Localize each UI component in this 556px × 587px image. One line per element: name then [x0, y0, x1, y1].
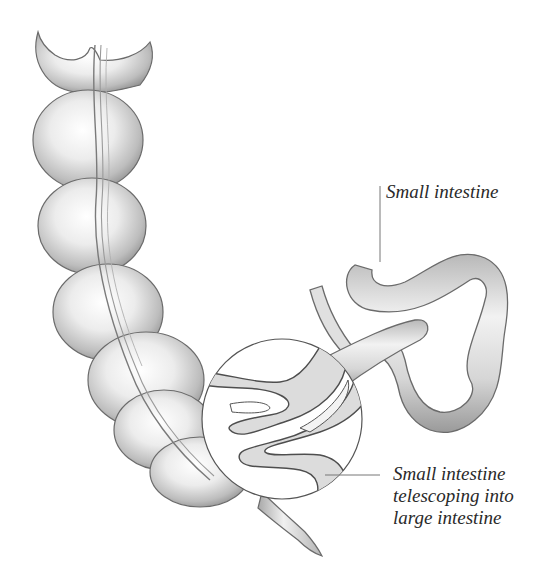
label-telescoping-line3: large intestine — [393, 507, 514, 529]
appendix — [258, 492, 322, 556]
label-telescoping: Small intestine telescoping into large i… — [393, 463, 514, 529]
label-small-intestine: Small intestine — [386, 181, 498, 203]
label-telescoping-line1: Small intestine — [393, 463, 514, 485]
label-telescoping-line2: telescoping into — [393, 485, 514, 507]
